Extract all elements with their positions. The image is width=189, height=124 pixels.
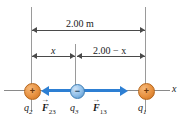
charge-sign-q1: + — [144, 87, 149, 96]
charge-q3: − — [70, 84, 85, 99]
charge-q1: + — [138, 83, 155, 100]
force-arrowhead-f13 — [120, 86, 128, 96]
force-label-f23-subscript: 23 — [49, 108, 56, 116]
dimension-label-x: x — [48, 45, 58, 56]
dimension-arrow-remainder-right — [140, 53, 145, 59]
charge-sign-q2: + — [30, 87, 35, 96]
dimension-arrow-x-left — [32, 53, 37, 59]
x-axis-label: x — [172, 83, 176, 94]
force-vector-f13 — [80, 89, 120, 92]
charge-q2: + — [24, 83, 41, 100]
force-arrowhead-f23 — [41, 86, 49, 96]
force-label-f13: F13 — [93, 102, 107, 116]
force-label-f13-subscript: 13 — [100, 108, 107, 116]
dimension-line-total — [32, 30, 145, 31]
charge-label-q3: q3 — [70, 102, 79, 116]
dimension-line-x — [32, 56, 75, 57]
charge-label-q2: q2 — [24, 102, 33, 116]
force-diagram: 2.00 m x 2.00 − x x + − + q2 q3 q1 F23 F… — [0, 0, 189, 124]
force-label-f23-symbol: F — [42, 102, 49, 113]
dimension-line-remainder — [77, 56, 145, 57]
charge-label-q1-subscript: 1 — [143, 108, 147, 116]
charge-label-q1: q1 — [138, 102, 147, 116]
force-label-f13-symbol: F — [93, 102, 100, 113]
dimension-arrow-total-right — [140, 27, 145, 33]
charge-label-q2-subscript: 2 — [29, 108, 33, 116]
dimension-label-remainder: 2.00 − x — [90, 45, 129, 56]
force-label-f23: F23 — [42, 102, 56, 116]
dimension-arrow-total-left — [32, 27, 37, 33]
charge-sign-q3: − — [75, 87, 80, 96]
dimension-label-total: 2.00 m — [63, 18, 97, 29]
dimension-arrow-remainder-left — [77, 53, 82, 59]
dimension-arrow-x-right — [70, 53, 75, 59]
charge-label-q3-subscript: 3 — [75, 108, 79, 116]
